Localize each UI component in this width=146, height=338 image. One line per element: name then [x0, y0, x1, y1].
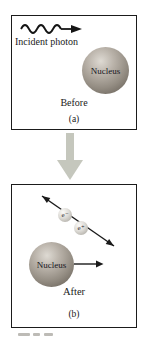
nucleus-sphere-after: Nucleus — [29, 242, 74, 287]
nucleus-recoil-arrow-icon — [74, 259, 104, 269]
electron-sphere: e⁻ — [58, 208, 72, 222]
electron-label: e⁻ — [61, 211, 68, 219]
nucleus-label-after: Nucleus — [37, 260, 67, 270]
positron-sphere: e⁺ — [74, 221, 88, 235]
nucleus-sphere-before: Nucleus — [82, 47, 129, 94]
positron-label: e⁺ — [77, 224, 84, 232]
panel-a-letter: (a) — [12, 114, 136, 124]
panel-a-box: Incident photon Nucleus Before (a) — [11, 15, 137, 130]
cropped-caption-fragment — [44, 333, 53, 336]
transition-down-arrow-icon — [56, 133, 84, 181]
cropped-caption-fragment — [18, 333, 30, 336]
after-label: After — [12, 286, 136, 298]
panel-b-box: e⁻ e⁺ Nucleus After (b) — [11, 184, 137, 328]
panel-b-letter: (b) — [12, 309, 136, 319]
photon-wavy-arrow-icon — [20, 21, 83, 35]
pair-production-diagram: Incident photon Nucleus Before (a) e⁻ e⁺… — [0, 0, 146, 338]
before-label: Before — [12, 97, 136, 108]
incident-photon-label: Incident photon — [15, 36, 78, 47]
cropped-caption-fragment — [33, 333, 40, 336]
nucleus-label-before: Nucleus — [91, 66, 121, 76]
